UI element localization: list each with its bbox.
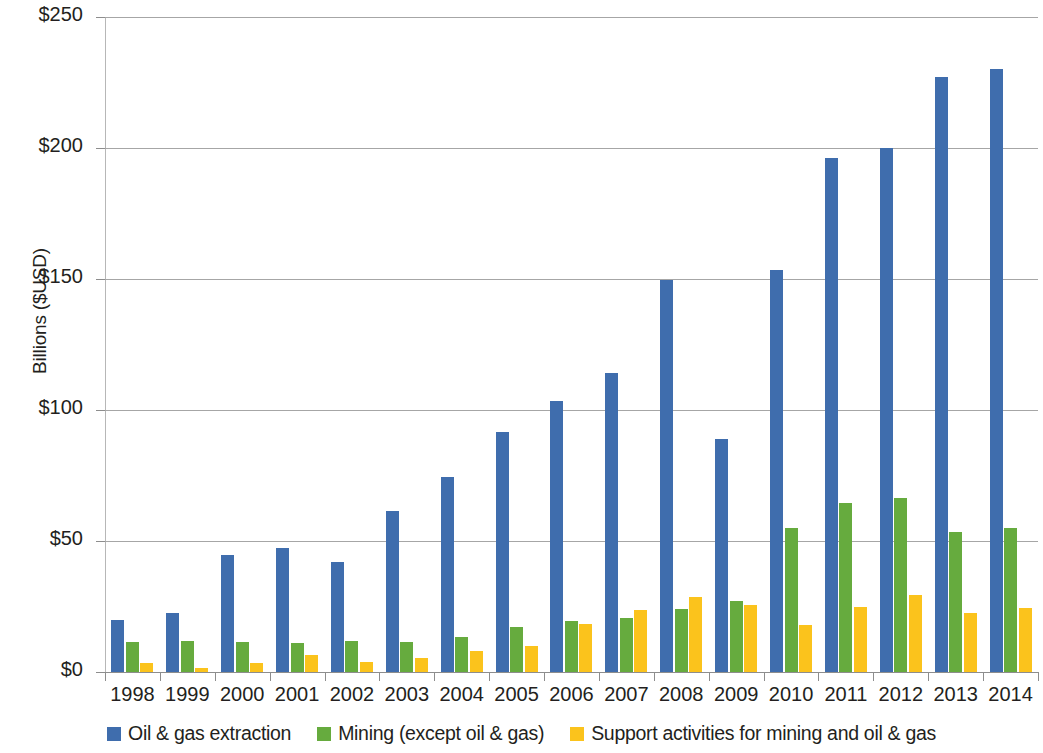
bar-group [928,17,983,672]
x-axis-tick-mark [983,672,984,681]
bar [470,651,483,672]
bar [660,280,673,672]
bar [579,624,592,672]
y-axis-tick-mark [96,410,105,411]
x-axis-tick-label: 2014 [983,683,1038,706]
bar [360,662,373,672]
bar [510,627,523,672]
bar [894,498,907,672]
bar-group [379,17,434,672]
x-axis-tick-label: 2000 [215,683,270,706]
y-axis-tick-label: $50 [0,527,83,550]
bar [1004,528,1017,672]
y-axis-tick-mark [96,672,105,673]
x-axis-tick-label: 2007 [599,683,654,706]
bar-group [873,17,928,672]
bar [126,642,139,672]
x-axis-tick-mark [105,672,106,681]
bar [140,663,153,672]
bar-group [270,17,325,672]
bar [181,641,194,672]
x-axis-tick-mark [709,672,710,681]
bar [715,439,728,672]
bar [744,605,757,672]
bar [415,658,428,672]
x-axis-tick-mark [434,672,435,681]
legend-item[interactable]: Mining (except oil & gas) [317,722,544,745]
legend-swatch-icon [107,727,121,741]
x-axis-tick-mark [1038,672,1039,681]
x-axis-line [105,672,1038,673]
legend: Oil & gas extractionMining (except oil &… [0,722,1043,745]
bar [839,503,852,672]
bar-group [160,17,215,672]
bar [730,601,743,672]
bar [276,548,289,672]
bar [221,555,234,672]
bar [620,618,633,672]
bar [689,597,702,672]
bar-group [599,17,654,672]
legend-item[interactable]: Oil & gas extraction [107,722,291,745]
x-axis-tick-label: 2002 [325,683,380,706]
bar [550,401,563,672]
x-axis-tick-mark [873,672,874,681]
bar [386,511,399,672]
legend-label: Mining (except oil & gas) [338,722,544,745]
bar [496,432,509,672]
bar [441,477,454,672]
x-axis-tick-label: 2012 [873,683,928,706]
bar [455,637,468,672]
bar [250,663,263,672]
bar [634,610,647,672]
x-axis-tick-mark [544,672,545,681]
x-axis-tick-label: 2006 [544,683,599,706]
x-axis-tick-mark [599,672,600,681]
bar [854,607,867,673]
x-axis-tick-label: 1998 [105,683,160,706]
x-axis-tick-label: 2009 [709,683,764,706]
bar [236,642,249,672]
bar-group [544,17,599,672]
y-axis-tick-label: $150 [0,265,83,288]
x-axis-tick-mark [654,672,655,681]
x-axis-tick-label: 2001 [270,683,325,706]
y-axis-tick-label: $250 [0,3,83,26]
bar [949,532,962,672]
bar [770,270,783,672]
bar [825,158,838,672]
bar-group [434,17,489,672]
bar [331,562,344,672]
bar [1019,608,1032,672]
bar [525,646,538,672]
x-axis-tick-label: 2008 [654,683,709,706]
y-axis-title: Billions ($USD) [29,211,51,411]
bar [291,643,304,672]
x-axis-tick-label: 2011 [818,683,873,706]
bar-group [764,17,819,672]
y-axis-tick-mark [96,541,105,542]
bar [111,620,124,672]
bar [785,528,798,672]
bar [909,595,922,672]
bar [675,609,688,672]
x-axis-tick-mark [270,672,271,681]
x-axis-tick-mark [325,672,326,681]
bar-group [709,17,764,672]
x-axis-tick-label: 2010 [764,683,819,706]
bar [935,77,948,672]
x-axis-tick-label: 2004 [434,683,489,706]
x-axis-tick-mark [215,672,216,681]
bar-group [489,17,544,672]
plot-area [105,17,1038,672]
bar [400,642,413,672]
x-axis-tick-mark [379,672,380,681]
bar [605,373,618,672]
x-axis-tick-label: 2005 [489,683,544,706]
bar-group [654,17,709,672]
bar-group [818,17,873,672]
bar [880,148,893,672]
legend-item[interactable]: Support activities for mining and oil & … [570,722,936,745]
y-axis-tick-label: $100 [0,396,83,419]
bar [799,625,812,672]
